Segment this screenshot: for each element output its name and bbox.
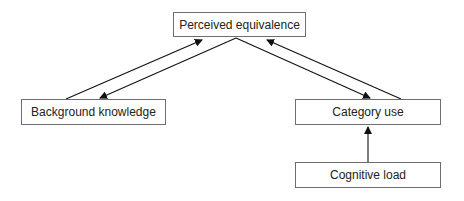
edge-background-to-perceived [66, 40, 202, 99]
node-label: Cognitive load [330, 168, 406, 182]
edge-perceived-to-background [100, 38, 236, 98]
node-background-knowledge: Background knowledge [21, 99, 166, 125]
edge-perceived-to-category [236, 38, 370, 98]
node-label: Background knowledge [31, 105, 156, 119]
node-label: Perceived equivalence [179, 18, 300, 32]
node-cognitive-load: Cognitive load [295, 162, 441, 188]
node-category-use: Category use [295, 99, 441, 125]
node-label: Category use [332, 105, 403, 119]
node-perceived-equivalence: Perceived equivalence [173, 12, 306, 37]
edge-category-to-perceived [267, 40, 401, 99]
